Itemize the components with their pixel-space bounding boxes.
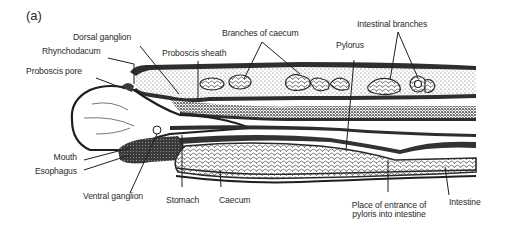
label-esophagus: Esophagus	[30, 167, 77, 176]
label-pylorus: Pylorus	[336, 41, 364, 50]
ventral-tubes	[170, 125, 476, 182]
label-ventral-ganglion: Ventral ganglion	[83, 192, 143, 201]
label-caecum: Caecum	[219, 196, 250, 205]
longitudinal-section-diagram: (a) Dorsal ganglion Rhynchodacum Probosc…	[0, 0, 508, 231]
label-place-of-entrance-line2: pyloris into intestine	[343, 210, 435, 219]
label-rhynchodacum: Rhynchodacum	[42, 47, 101, 56]
panel-label: (a)	[26, 8, 42, 23]
label-intestine: Intestine	[449, 198, 481, 207]
label-stomach: Stomach	[166, 196, 199, 205]
label-intestinal-branches: Intestinal branches	[357, 20, 427, 29]
label-proboscis-pore: Proboscis pore	[26, 67, 82, 76]
label-dorsal-ganglion: Dorsal ganglion	[73, 33, 131, 42]
label-proboscis-sheath: Proboscis sheath	[162, 49, 226, 58]
label-branches-of-caecum: Branches of caecum	[222, 29, 299, 38]
label-mouth: Mouth	[50, 153, 77, 162]
